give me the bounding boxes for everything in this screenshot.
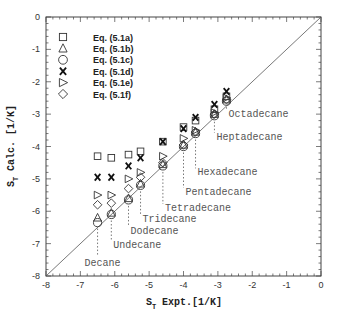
y-tick-label: -5 xyxy=(32,174,40,184)
annotation-label: Decane xyxy=(85,258,121,269)
legend-marker-icon xyxy=(59,79,67,87)
annotation-label: Heptadecane xyxy=(216,132,282,143)
annotation-label: Tetradecane xyxy=(165,203,231,214)
square-marker xyxy=(125,151,132,158)
circle-marker xyxy=(93,218,101,226)
y-tick-label: -6 xyxy=(32,206,40,216)
annotation-label: Tridecane xyxy=(143,214,197,225)
square-marker xyxy=(94,153,101,160)
legend-label: Eq. (5.1a) xyxy=(93,33,133,43)
y-tick-label: -3 xyxy=(32,109,40,119)
x-marker xyxy=(95,174,101,181)
x-marker xyxy=(109,174,115,181)
x-tick-label: -8 xyxy=(42,280,50,290)
diamond-marker xyxy=(124,184,133,193)
legend: Eq. (5.1a)Eq. (5.1b)Eq. (5.1c)Eq. (5.1d)… xyxy=(58,33,133,100)
diamond-marker xyxy=(107,199,116,208)
triangle-right-marker xyxy=(108,191,116,199)
y-tick-label: -1 xyxy=(32,44,40,54)
diagonal-reference-line xyxy=(46,17,321,276)
triangle-right-marker xyxy=(94,191,102,199)
y-tick-label: -2 xyxy=(32,77,40,87)
legend-marker-icon xyxy=(58,89,67,98)
x-marker xyxy=(160,138,166,145)
x-tick-label: -3 xyxy=(214,280,222,290)
annotation-label: Undecane xyxy=(113,240,161,251)
legend-label: Eq. (5.1f) xyxy=(93,90,131,100)
x-tick-label: -2 xyxy=(248,280,256,290)
square-marker xyxy=(108,155,115,162)
x-tick-label: -5 xyxy=(145,280,153,290)
y-tick-label: -4 xyxy=(32,142,40,152)
legend-marker-icon xyxy=(60,68,66,75)
y-equals-x-line xyxy=(46,17,321,276)
y-axis-title: ST Calc. [1/K] xyxy=(6,105,20,187)
x-tick-label: -1 xyxy=(283,280,291,290)
annotation-label: Octadecane xyxy=(228,109,288,120)
x-marker xyxy=(138,155,144,162)
legend-marker-icon xyxy=(59,55,68,64)
x-tick-label: -7 xyxy=(76,280,84,290)
annotation-label: Dodecane xyxy=(131,226,179,237)
y-tick-label: -8 xyxy=(32,271,40,281)
x-tick-label: -6 xyxy=(111,280,119,290)
diamond-marker xyxy=(93,200,102,209)
legend-label: Eq. (5.1e) xyxy=(93,78,133,88)
legend-label: Eq. (5.1d) xyxy=(93,67,134,77)
y-tick-label: 0 xyxy=(35,12,40,22)
triangle-up-marker xyxy=(137,179,145,187)
scatter-chart: -8-7-6-5-4-3-2-100-1-2-3-4-5-6-7-8 Decan… xyxy=(0,0,337,317)
x-marker xyxy=(181,125,187,132)
x-tick-label: -4 xyxy=(179,280,187,290)
x-marker xyxy=(126,163,132,170)
square-marker xyxy=(137,148,144,155)
triangle-right-marker xyxy=(125,175,133,183)
legend-label: Eq. (5.1c) xyxy=(93,55,133,65)
x-marker xyxy=(224,88,230,95)
annotation-label: Pentadecane xyxy=(186,187,252,198)
x-tick-label: 0 xyxy=(318,280,323,290)
x-marker xyxy=(212,101,218,108)
x-axis-title: ST Expt.[1/K] xyxy=(146,297,222,311)
legend-marker-icon xyxy=(59,33,66,40)
y-tick-label: -7 xyxy=(32,239,40,249)
legend-marker-icon xyxy=(59,44,67,52)
legend-label: Eq. (5.1b) xyxy=(93,44,134,54)
annotation-label: Hexadecane xyxy=(198,167,258,178)
